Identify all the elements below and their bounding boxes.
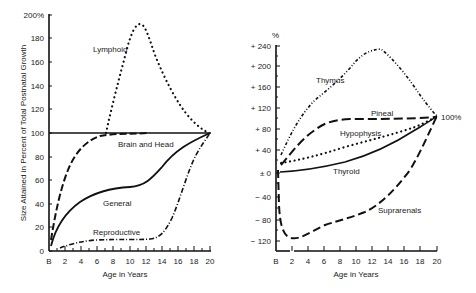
x-tick: 4 <box>79 257 84 266</box>
left-chart: 0 20 40 60 80 100 120 140 160 180 200% <box>19 11 215 279</box>
end-100-percent-label: 100% <box>441 113 461 122</box>
x-tick: B <box>46 257 51 266</box>
suprarenals-label: Suprarenals <box>378 206 421 215</box>
x-tick: 14 <box>158 257 167 266</box>
x-tick: 10 <box>126 257 135 266</box>
y-tick: 200% <box>24 11 44 20</box>
x-tick: 6 <box>322 257 327 266</box>
right-x-axis-label: Age in Years <box>334 270 379 279</box>
growth-curves-figure: 0 20 40 60 80 100 120 140 160 180 200% <box>0 0 476 293</box>
general-label: General <box>103 199 132 208</box>
x-tick: 12 <box>368 257 377 266</box>
thyroid-label: Thyroid <box>333 167 360 176</box>
right-y-tick-labels: + 240 + 200 + 160 + 120 + 80 + 40 ± 0 − … <box>251 42 272 246</box>
x-tick: B <box>273 257 278 266</box>
y-tick: 180 <box>31 34 45 43</box>
right-y-unit-label: % <box>272 31 279 40</box>
y-tick: + 120 <box>251 104 272 113</box>
thymus-label: Thymus <box>316 76 344 85</box>
left-x-axis-label: Age in Years <box>103 270 148 279</box>
x-tick: 14 <box>384 257 393 266</box>
y-tick: 80 <box>35 153 44 162</box>
x-tick: 8 <box>111 257 116 266</box>
y-tick: 100 <box>31 129 45 138</box>
y-tick: 60 <box>35 176 44 185</box>
y-tick: − 80 <box>255 216 271 225</box>
left-x-tick-labels: B 2 4 6 8 10 12 14 16 18 20 <box>46 257 215 266</box>
right-x-tick-labels: B 2 4 6 8 10 12 14 16 18 20 <box>273 257 442 266</box>
x-tick: 6 <box>95 257 100 266</box>
x-tick: 4 <box>306 257 311 266</box>
hypophysis-label: Hypophysis <box>340 129 381 138</box>
x-tick: 20 <box>206 257 215 266</box>
y-tick: + 160 <box>251 83 272 92</box>
x-tick: 12 <box>142 257 151 266</box>
y-tick: − 120 <box>251 237 272 246</box>
left-y-axis-label: Size Attained in Percent of Total Postna… <box>19 45 28 221</box>
y-tick: ± 0 <box>260 169 272 178</box>
y-tick: − 40 <box>255 193 271 202</box>
x-tick: 18 <box>416 257 425 266</box>
y-tick: 40 <box>35 200 44 209</box>
x-tick: 20 <box>433 257 442 266</box>
lymphoid-label: Lymphoid <box>93 45 127 54</box>
y-tick: + 80 <box>255 125 271 134</box>
lymphoid-curve <box>106 24 209 133</box>
x-tick: 2 <box>63 257 68 266</box>
x-tick: 16 <box>174 257 183 266</box>
y-tick: 160 <box>31 58 45 67</box>
y-tick: 140 <box>31 82 45 91</box>
y-tick: 0 <box>40 247 45 256</box>
reproductive-label: Reproductive <box>93 228 141 237</box>
y-tick: + 240 <box>251 42 272 51</box>
y-tick: + 40 <box>255 146 271 155</box>
pineal-label: Pineal <box>371 109 393 118</box>
y-tick: 120 <box>31 105 45 114</box>
x-tick: 8 <box>338 257 343 266</box>
x-tick: 18 <box>190 257 199 266</box>
x-tick: 10 <box>352 257 361 266</box>
y-tick: + 200 <box>251 62 272 71</box>
right-chart: % + 240 + 200 + 160 + 120 <box>251 31 462 279</box>
x-tick: 2 <box>290 257 295 266</box>
brain-head-label: Brain and Head <box>118 140 174 149</box>
x-tick: 16 <box>400 257 409 266</box>
y-tick: 20 <box>35 223 44 232</box>
